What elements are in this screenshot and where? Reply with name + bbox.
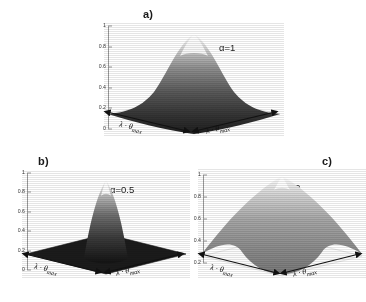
panel-c-x-axis-label-right-text: λ · θ	[292, 267, 307, 279]
panel-a-x-axis-label-right-text: λ · θ	[205, 124, 220, 136]
panel-a-x-axis-arrow-right	[190, 110, 282, 136]
panel-c-letter: c)	[322, 155, 332, 167]
panel-a: a) α=1 1 0.8 0.6 0.4 0.2 0	[86, 4, 291, 156]
panel-a-x-axis-arrow-left	[102, 110, 194, 136]
panel-b-x-axis-arrow-left	[20, 252, 106, 278]
panel-c: c) α=2 1 0.8 0.6 0.4 0.2	[183, 152, 366, 300]
panel-b: b) α=0.5 1 0.8 0.6 0.4 0.2 0	[6, 152, 191, 300]
panel-c-x-axis-arrow-right	[278, 252, 366, 278]
panel-b-x-axis-arrow-right	[102, 252, 188, 278]
panel-c-x-axis-arrow-left	[196, 252, 284, 278]
figure-root: a) α=1 1 0.8 0.6 0.4 0.2 0	[0, 0, 366, 302]
panel-b-x-axis-label-right-text: λ · θ	[115, 266, 130, 278]
panel-a-letter: a)	[143, 8, 153, 20]
panel-b-letter: b)	[38, 155, 49, 167]
